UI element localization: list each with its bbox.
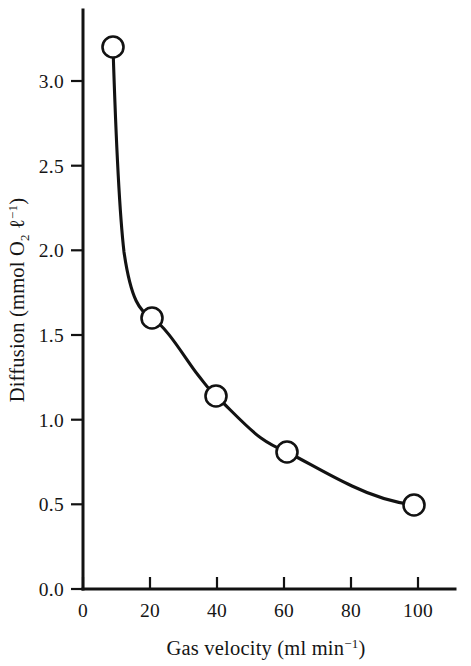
- y-tick-label-6: 3.0: [39, 71, 64, 92]
- y-axis-title-subscript: 2: [17, 234, 32, 241]
- x-tick-label-0: 0: [78, 600, 88, 621]
- y-axis-title: Diffusion (mmol O2 ℓ−1): [5, 198, 32, 403]
- plot-background: [0, 0, 471, 666]
- x-tick-label-5: 100: [403, 600, 433, 621]
- y-axis-title-mid: ℓ: [6, 219, 28, 234]
- data-point-0: [103, 37, 124, 58]
- diffusion-vs-gas-velocity-chart: 0.0 0.5 1.0 1.5 2.0 2.5 3.0 Diffusion (m…: [0, 0, 471, 666]
- y-tick-label-3: 1.5: [39, 325, 64, 346]
- y-tick-label-1: 0.5: [39, 494, 64, 515]
- x-tick-label-1: 20: [140, 600, 160, 621]
- x-tick-label-2: 40: [207, 600, 227, 621]
- y-tick-label-5: 2.5: [39, 156, 64, 177]
- y-tick-label-4: 2.0: [39, 240, 64, 261]
- data-point-3: [277, 442, 298, 463]
- y-axis-title-exponent: −1: [5, 205, 20, 219]
- y-tick-label-2: 1.0: [39, 410, 64, 431]
- y-tick-label-0: 0.0: [39, 579, 64, 600]
- y-axis-title-lead: Diffusion (mmol O: [6, 241, 29, 402]
- x-axis-title-exponent: −1: [344, 636, 358, 651]
- y-axis-title-tail: ): [6, 198, 29, 205]
- x-axis-title: Gas velocity (ml min−1): [167, 636, 366, 660]
- data-point-4: [404, 495, 425, 516]
- x-tick-label-3: 60: [274, 600, 294, 621]
- x-axis-title-tail: ): [358, 637, 365, 660]
- chart-figure: 0.0 0.5 1.0 1.5 2.0 2.5 3.0 Diffusion (m…: [0, 0, 471, 666]
- x-tick-label-4: 80: [341, 600, 361, 621]
- x-axis-title-main: Gas velocity (ml min: [167, 637, 345, 660]
- data-point-1: [142, 308, 163, 329]
- data-point-2: [206, 386, 227, 407]
